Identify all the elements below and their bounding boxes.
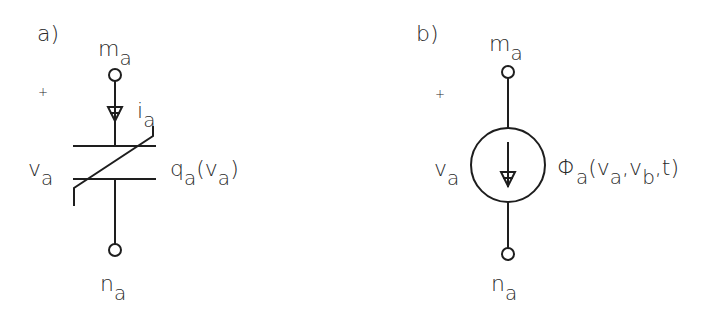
charge-base: q [170,156,184,181]
panel-b-tag: b) [416,23,439,45]
source-phi-label: Φa(va,vb,t) [557,157,679,179]
voltage-base: v [28,156,41,181]
voltage-v-a-label: va [28,158,53,180]
voltage-sub: a [447,166,459,190]
charge-sub: a [184,166,196,190]
current-source-symbol [471,66,545,260]
panel-a-tag: a) [37,23,59,45]
current-sub: a [143,108,155,132]
charge-open-paren: ( [196,156,205,181]
charge-close-paren: ) [230,156,239,181]
nonlinear-slash [74,127,153,205]
node-n-base: n [100,271,114,296]
phi-arg2-base: v [629,155,642,180]
phi-sep2: , [655,155,662,180]
phi-arg2-sub: b [642,165,655,189]
charge-arg-base: v [205,156,218,181]
node-n-base: n [491,271,505,296]
node-m-b-label: ma [489,33,523,55]
node-n-b-label: na [491,273,517,295]
bottom-terminal-a [109,244,121,256]
phi-arg1-sub: a [610,165,622,189]
phi-arg1-base: v [597,155,610,180]
charge-q-a-label: qa(va) [170,158,239,180]
node-m-base: m [489,31,510,56]
node-m-sub: a [119,46,131,70]
top-terminal-a [109,69,121,81]
top-terminal-b [502,66,514,78]
node-m-a-label: ma [98,38,132,60]
voltage-v-a-label-b: va [434,158,459,180]
phi-open-paren: ( [588,155,597,180]
voltage-base: v [434,156,447,181]
bottom-terminal-b [502,248,514,260]
node-m-sub: a [510,41,522,65]
diagram-canvas: a) ma + ia va qa(va) na b) ma + va Φa(va… [0,0,716,316]
charge-arg-sub: a [218,166,230,190]
plus-sign-b: + [435,88,445,100]
node-n-sub: a [114,281,126,305]
phi-close-paren: ) [670,155,679,180]
phi-sub: a [576,165,588,189]
node-n-sub: a [505,281,517,305]
node-n-a-label: na [100,273,126,295]
current-i-a-label: ia [137,100,155,122]
phi-base: Φ [557,155,576,180]
voltage-sub: a [41,166,53,190]
plus-sign-a: + [38,86,48,98]
node-m-base: m [98,36,119,61]
